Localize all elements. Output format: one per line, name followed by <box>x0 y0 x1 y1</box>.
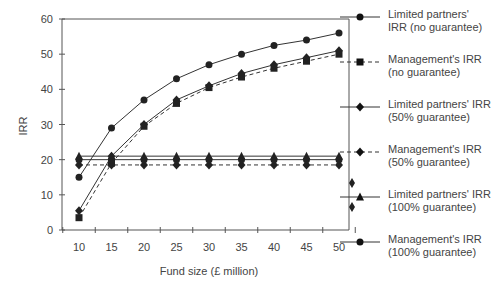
y-tick-label: 10 <box>41 189 53 201</box>
y-tick-label: 30 <box>41 119 53 131</box>
legend-label: Limited partners' IRR(100% guarantee) <box>388 188 491 214</box>
y-tick-label: 0 <box>47 224 53 236</box>
x-tick-label: 35 <box>235 241 247 253</box>
y-tick-label: 50 <box>41 48 53 60</box>
x-tick-label: 10 <box>73 241 85 253</box>
x-tick-label: 40 <box>268 241 280 253</box>
legend-label: Limited partners'IRR (no guarantee) <box>388 8 482 34</box>
axes: 0102030405060101520253035404550 <box>41 13 356 253</box>
legend-symbol-diamond-solid <box>340 100 380 114</box>
x-tick-label: 45 <box>300 241 312 253</box>
legend-item: Limited partners' IRR(50% guarantee) <box>340 98 455 143</box>
x-tick-label: 20 <box>138 241 150 253</box>
series-layer <box>75 30 343 222</box>
series-1 <box>76 51 343 222</box>
legend-label: Management's IRR(no guarantee) <box>388 53 482 79</box>
y-tick-label: 40 <box>41 83 53 95</box>
series-2 <box>75 46 343 215</box>
legend-label: Limited partners' IRR(50% guarantee) <box>388 98 491 124</box>
series-5 <box>76 156 343 163</box>
x-tick-label: 30 <box>203 241 215 253</box>
y-tick-label: 60 <box>41 13 53 25</box>
y-tick-label: 20 <box>41 154 53 166</box>
legend-symbol-circle-solid <box>340 10 380 24</box>
legend-item: Management's IRR(no guarantee) <box>340 53 455 98</box>
legend-symbol-triangle-solid <box>340 190 380 204</box>
legend-item: Limited partners' IRR(100% guarantee) <box>340 188 455 233</box>
x-axis-title: Fund size (£ million) <box>160 265 258 277</box>
legend-symbol-circle-solid <box>340 235 380 249</box>
legend-symbol-square-dashed <box>340 55 380 69</box>
legend-symbol-diamond-dashed <box>340 145 380 159</box>
legend-item: Management's IRR(50% guarantee) <box>340 143 455 188</box>
legend-label: Management's IRR(50% guarantee) <box>388 143 482 169</box>
y-axis-title: IRR <box>17 116 29 135</box>
legend-item: Management's IRR(100% guarantee) <box>340 233 455 278</box>
legend-label: Management's IRR(100% guarantee) <box>388 233 482 259</box>
x-tick-label: 15 <box>105 241 117 253</box>
legend-item: Limited partners'IRR (no guarantee) <box>340 8 455 53</box>
x-tick-label: 25 <box>170 241 182 253</box>
legend: Limited partners'IRR (no guarantee) Mana… <box>340 8 455 278</box>
